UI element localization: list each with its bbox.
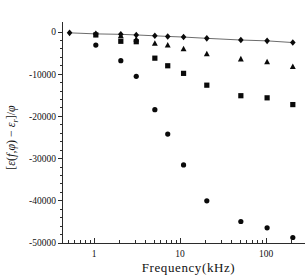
y-tick-label: -10000 xyxy=(29,70,56,80)
y-tick-label: -50000 xyxy=(29,238,56,248)
y-tick-label: -30000 xyxy=(29,154,56,164)
y-tick-label: -40000 xyxy=(29,196,56,206)
scatter-plot: [ε(f,φ) − εr]/φ Frequency(kHz) 0-10000-2… xyxy=(0,0,308,279)
data-point-triangle xyxy=(264,59,270,65)
data-point-triangle xyxy=(290,63,296,69)
data-point-diamond xyxy=(204,35,210,42)
data-point-square xyxy=(165,63,170,68)
data-point-triangle xyxy=(165,42,171,48)
data-point-square xyxy=(290,102,295,107)
x-tick-label: 1 xyxy=(92,249,97,259)
data-point-circle xyxy=(204,198,209,203)
series-markers xyxy=(67,30,296,241)
data-point-square xyxy=(134,39,139,44)
data-point-circle xyxy=(181,162,186,167)
data-point-square xyxy=(265,95,270,100)
data-point-circle xyxy=(152,107,157,112)
data-point-circle xyxy=(238,219,243,224)
data-point-circle xyxy=(290,235,295,240)
data-point-diamond xyxy=(67,30,73,37)
data-point-square xyxy=(152,56,157,61)
y-axis-label: [ε(f,φ) − εr]/φ xyxy=(4,105,20,170)
data-point-circle xyxy=(134,74,139,79)
data-point-square xyxy=(118,39,123,44)
x-axis-title: Frequency(kHz) xyxy=(142,260,236,275)
data-point-square xyxy=(181,71,186,76)
y-axis-label-text: [ε(f,φ) − εr]/φ xyxy=(4,105,20,170)
data-point-triangle xyxy=(181,46,187,52)
data-point-diamond xyxy=(165,33,171,40)
data-point-diamond xyxy=(290,39,296,46)
plot-axes xyxy=(58,22,305,243)
y-tick-label: 0 xyxy=(51,27,56,37)
data-point-square xyxy=(93,32,98,37)
data-point-circle xyxy=(265,225,270,230)
x-tick-labels: 110100 xyxy=(92,249,274,259)
y-tick-label: -20000 xyxy=(29,112,56,122)
data-point-diamond xyxy=(238,37,244,44)
x-axis-title-text: Frequency(kHz) xyxy=(142,260,236,275)
data-point-triangle xyxy=(204,51,210,57)
x-tick-label: 100 xyxy=(259,249,274,259)
data-point-diamond xyxy=(181,34,187,41)
x-tick-label: 10 xyxy=(175,249,185,259)
data-point-circle xyxy=(118,58,123,63)
data-point-square xyxy=(204,83,209,88)
data-point-triangle xyxy=(118,33,124,39)
figure-container: [ε(f,φ) − εr]/φ Frequency(kHz) 0-10000-2… xyxy=(0,0,308,279)
data-point-circle xyxy=(93,42,98,47)
y-tick-labels: 0-10000-20000-30000-40000-50000 xyxy=(29,27,56,248)
data-point-diamond xyxy=(152,32,158,39)
data-point-triangle xyxy=(152,40,158,46)
series-lines xyxy=(70,33,293,43)
data-point-triangle xyxy=(238,56,244,62)
data-point-diamond xyxy=(264,38,270,45)
data-point-circle xyxy=(165,132,170,137)
data-point-square xyxy=(238,93,243,98)
series-line-diamond-series xyxy=(70,33,293,43)
